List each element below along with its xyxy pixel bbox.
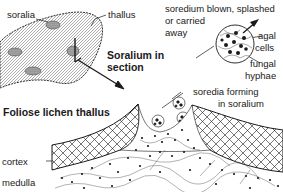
inset-title-line2: section xyxy=(107,61,144,73)
label-soralia: soralia xyxy=(7,9,35,20)
label-fungal-line1: fungal xyxy=(250,58,276,69)
label-soredia-forming-line1: soredia forming xyxy=(193,86,258,97)
label-soredium-line1: soredium blown, splashed xyxy=(165,3,275,14)
label-agal-line1: agal xyxy=(258,30,276,41)
soralium-3 xyxy=(67,46,79,56)
soralium-1 xyxy=(46,21,60,29)
label-thallus: thallus xyxy=(108,9,135,20)
lichen-diagram: soralia thallus Soralium in section sore… xyxy=(0,0,283,192)
soralium-2 xyxy=(8,48,22,56)
label-cortex: cortex xyxy=(2,156,28,167)
label-soredium-line3: away xyxy=(165,27,187,38)
label-medulla: medulla xyxy=(2,177,35,188)
label-fungal-line2: hyphae xyxy=(245,70,276,81)
label-soredia-forming-line2: in soralium xyxy=(218,98,264,109)
thallus-lobe xyxy=(0,12,103,88)
inset-title-line1: Soralium in xyxy=(107,49,164,61)
soredium-released xyxy=(216,19,259,63)
soralium-4 xyxy=(25,67,41,75)
label-agal-line2: cells xyxy=(255,42,274,53)
label-soredium-line2: or carried xyxy=(165,15,205,26)
diagram-title: Foliose lichen thallus xyxy=(3,106,110,118)
